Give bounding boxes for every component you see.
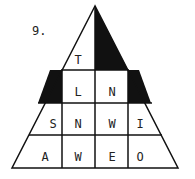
cell-r4-c4: O xyxy=(136,150,143,164)
shaded-right xyxy=(128,70,151,103)
cell-r3-c4: I xyxy=(136,117,143,131)
cell-r3-c1: S xyxy=(49,117,56,131)
cell-r4-c2: W xyxy=(74,150,82,164)
cell-r2-c1: L xyxy=(74,85,81,99)
cell-r4-c3: E xyxy=(108,150,115,164)
triangle-puzzle: 9. T L N S N W I A W E O xyxy=(0,0,195,179)
puzzle-number: 9. xyxy=(32,24,46,38)
cell-r3-c2: N xyxy=(74,117,81,131)
cell-r1-c1: T xyxy=(74,53,81,67)
shaded-left xyxy=(38,70,62,103)
cell-r3-c3: W xyxy=(108,117,116,131)
cell-r2-c2: N xyxy=(108,85,115,99)
cell-r4-c1: A xyxy=(41,150,49,164)
